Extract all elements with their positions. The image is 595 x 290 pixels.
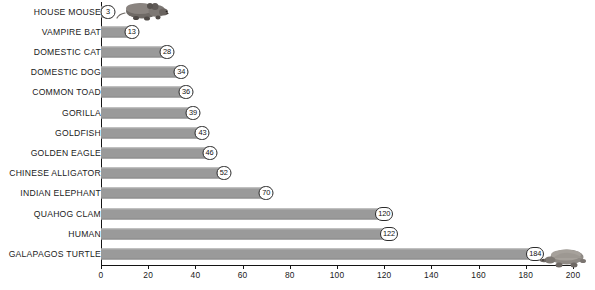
x-tick-label: 0	[99, 270, 104, 280]
value-badge: 46	[202, 146, 217, 160]
value-badge: 34	[174, 65, 189, 79]
category-label: HOUSE MOUSE	[34, 7, 101, 16]
bar-row: GORILLA39	[0, 103, 595, 122]
bar-row: DOMESTIC DOG34	[0, 63, 595, 82]
bar-row: GALAPAGOS TURTLE184	[0, 244, 595, 263]
category-label: GOLDFISH	[55, 128, 101, 137]
x-tick	[337, 266, 338, 269]
x-tick-label: 40	[191, 270, 201, 280]
x-tick	[243, 266, 244, 269]
bar-chart: HOUSE MOUSE3VAMPIRE BAT13DOMESTIC CAT28D…	[0, 0, 595, 290]
value-badge: 3	[101, 5, 116, 19]
x-tick	[431, 266, 432, 269]
bar	[101, 46, 167, 57]
category-label: HUMAN	[68, 229, 101, 238]
bar	[101, 188, 266, 199]
value-badge: 13	[124, 25, 139, 39]
category-label: GORILLA	[62, 108, 101, 117]
category-label: DOMESTIC DOG	[31, 68, 101, 77]
bar	[101, 228, 389, 239]
cropped-caption-strip	[0, 283, 595, 290]
bar	[101, 168, 224, 179]
x-tick-label: 180	[519, 270, 534, 280]
plot-area: HOUSE MOUSE3VAMPIRE BAT13DOMESTIC CAT28D…	[0, 0, 595, 268]
bar	[101, 127, 202, 138]
bar	[101, 208, 384, 219]
category-label: GALAPAGOS TURTLE	[9, 250, 101, 259]
x-tick	[573, 266, 574, 269]
bar	[101, 67, 181, 78]
bar-row: GOLDEN EAGLE46	[0, 143, 595, 162]
x-tick-label: 160	[471, 270, 486, 280]
x-tick-label: 140	[424, 270, 439, 280]
bar-row: INDIAN ELEPHANT70	[0, 184, 595, 203]
value-badge: 39	[186, 106, 201, 120]
bar-row: COMMON TOAD36	[0, 83, 595, 102]
bar-row: HUMAN122	[0, 224, 595, 243]
bar	[101, 107, 193, 118]
bar-row: GOLDFISH43	[0, 123, 595, 142]
x-tick-label: 20	[143, 270, 153, 280]
bar	[101, 248, 535, 259]
category-label: QUAHOG CLAM	[34, 209, 101, 218]
category-label: CHINESE ALLIGATOR	[9, 169, 101, 178]
bar	[101, 147, 210, 158]
x-tick	[290, 266, 291, 269]
bar-row: CHINESE ALLIGATOR52	[0, 164, 595, 183]
bar-row: HOUSE MOUSE3	[0, 2, 595, 21]
x-tick	[101, 266, 102, 269]
category-label: INDIAN ELEPHANT	[20, 189, 101, 198]
value-badge: 70	[259, 186, 274, 200]
category-label: VAMPIRE BAT	[42, 27, 101, 36]
x-tick	[384, 266, 385, 269]
category-label: DOMESTIC CAT	[34, 48, 101, 57]
value-badge: 43	[195, 126, 210, 140]
value-badge: 184	[526, 247, 544, 261]
category-label: COMMON TOAD	[32, 88, 101, 97]
x-tick-label: 120	[377, 270, 392, 280]
x-tick	[526, 266, 527, 269]
value-badge: 120	[375, 207, 393, 221]
value-badge: 36	[178, 85, 193, 99]
x-tick-label: 80	[285, 270, 295, 280]
value-badge: 28	[160, 45, 175, 59]
bar-row: DOMESTIC CAT28	[0, 42, 595, 61]
x-tick-label: 60	[238, 270, 248, 280]
bar	[101, 87, 186, 98]
x-tick	[195, 266, 196, 269]
bar-row: QUAHOG CLAM120	[0, 204, 595, 223]
x-tick-label: 200	[566, 270, 581, 280]
x-tick	[479, 266, 480, 269]
x-tick-label: 100	[330, 270, 345, 280]
value-badge: 122	[380, 227, 398, 241]
category-label: GOLDEN EAGLE	[31, 149, 101, 158]
value-badge: 52	[216, 166, 231, 180]
x-tick	[148, 266, 149, 269]
bar-row: VAMPIRE BAT13	[0, 22, 595, 41]
